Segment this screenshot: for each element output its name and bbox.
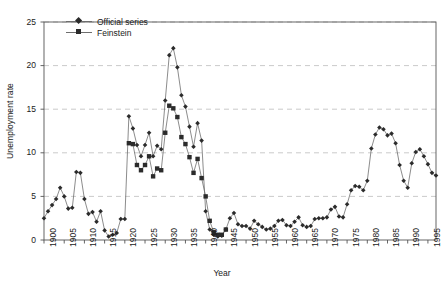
- data-point-diamond: [102, 228, 107, 233]
- data-point-diamond: [42, 216, 47, 221]
- x-axis-tick-label: 1940: [209, 228, 219, 247]
- data-point-square: [127, 141, 131, 145]
- square-marker-icon: [66, 27, 92, 38]
- data-point-diamond: [78, 171, 83, 176]
- data-point-square: [179, 135, 183, 139]
- data-point-square: [151, 174, 155, 178]
- x-axis-tick-label: 1955: [270, 228, 280, 247]
- x-axis-tick-label: 1960: [290, 228, 300, 247]
- x-axis-tick-label: 1965: [310, 228, 320, 247]
- data-point-diamond: [86, 212, 91, 217]
- data-point-diamond: [397, 163, 402, 168]
- data-point-diamond: [50, 203, 55, 208]
- data-point-diamond: [74, 170, 79, 175]
- x-axis-title: Year: [0, 268, 444, 278]
- y-axis-tick-label: 15: [10, 104, 36, 114]
- data-point-square: [163, 131, 167, 135]
- data-point-square: [155, 166, 159, 170]
- data-point-diamond: [151, 154, 156, 159]
- x-axis-tick-label: 1930: [169, 228, 179, 247]
- data-point-diamond: [369, 146, 374, 151]
- data-point-square: [203, 194, 207, 198]
- data-point-diamond: [171, 46, 176, 51]
- x-axis-tick-label: 1925: [149, 228, 159, 247]
- x-axis-tick-label: 1945: [229, 228, 239, 247]
- data-point-diamond: [203, 209, 208, 214]
- data-point-diamond: [179, 93, 184, 98]
- data-point-diamond: [422, 154, 427, 159]
- x-axis-tick-label: 1905: [68, 228, 78, 247]
- data-point-diamond: [240, 224, 245, 229]
- data-point-square: [207, 219, 211, 223]
- chart-legend: Official series Feinstein: [66, 16, 148, 38]
- data-point-diamond: [260, 225, 265, 230]
- plot-area: [0, 0, 444, 291]
- data-point-diamond: [385, 133, 390, 138]
- data-point-diamond: [325, 215, 330, 220]
- x-axis-tick-label: 1900: [48, 228, 58, 247]
- data-point-square: [135, 163, 139, 167]
- data-point-diamond: [413, 150, 418, 155]
- data-point-diamond: [66, 206, 71, 211]
- data-point-diamond: [430, 171, 435, 176]
- data-point-square: [143, 163, 147, 167]
- data-point-diamond: [163, 98, 168, 103]
- data-point-diamond: [312, 217, 317, 222]
- data-point-diamond: [434, 173, 439, 178]
- x-axis-tick-label: 1985: [391, 228, 401, 247]
- data-point-diamond: [167, 53, 172, 58]
- data-point-diamond: [405, 185, 410, 190]
- data-point-square: [131, 142, 135, 146]
- data-point-diamond: [333, 205, 338, 210]
- data-point-diamond: [191, 144, 196, 149]
- data-point-diamond: [131, 126, 136, 131]
- data-point-diamond: [135, 143, 140, 148]
- data-point-diamond: [46, 209, 51, 214]
- data-point-diamond: [365, 178, 370, 183]
- data-point-square: [191, 171, 195, 175]
- data-point-diamond: [82, 197, 87, 202]
- data-point-square: [159, 168, 163, 172]
- x-axis-tick-label: 1935: [189, 228, 199, 247]
- data-point-square: [187, 155, 191, 159]
- data-point-square: [171, 106, 175, 110]
- data-point-diamond: [373, 132, 378, 137]
- data-point-diamond: [187, 124, 192, 129]
- data-point-diamond: [127, 114, 132, 119]
- legend-item-feinstein: Feinstein: [66, 27, 148, 38]
- data-point-diamond: [401, 178, 406, 183]
- data-point-diamond: [94, 219, 99, 224]
- data-point-diamond: [264, 227, 269, 232]
- legend-label: Feinstein: [97, 28, 132, 38]
- data-point-diamond: [123, 217, 128, 222]
- y-axis-tick-label: 0: [10, 235, 36, 245]
- data-point-square: [224, 227, 228, 231]
- diamond-marker-icon: [66, 16, 92, 27]
- data-point-square: [220, 233, 224, 237]
- data-point-diamond: [147, 130, 152, 135]
- x-axis-tick-label: 1980: [371, 228, 381, 247]
- data-point-diamond: [389, 131, 394, 136]
- legend-item-official: Official series: [66, 16, 148, 27]
- data-point-square: [183, 142, 187, 146]
- series-line-official: [44, 48, 436, 236]
- data-point-diamond: [143, 143, 148, 148]
- data-point-diamond: [236, 222, 241, 227]
- unemployment-rate-chart: Unemployment rate Official series Feinst…: [0, 0, 444, 291]
- data-point-diamond: [393, 141, 398, 146]
- data-point-diamond: [90, 210, 95, 215]
- data-point-diamond: [54, 197, 59, 202]
- data-point-square: [175, 115, 179, 119]
- data-point-diamond: [183, 104, 188, 109]
- data-point-diamond: [199, 138, 204, 143]
- x-axis-tick-label: 1995: [432, 228, 442, 247]
- data-point-diamond: [377, 125, 382, 130]
- data-point-diamond: [175, 65, 180, 70]
- x-axis-tick-label: 1920: [128, 228, 138, 247]
- data-point-diamond: [418, 147, 423, 152]
- data-point-diamond: [304, 225, 309, 230]
- data-point-diamond: [321, 216, 326, 221]
- legend-label: Official series: [97, 17, 148, 27]
- data-point-diamond: [317, 216, 322, 221]
- data-point-diamond: [58, 185, 63, 190]
